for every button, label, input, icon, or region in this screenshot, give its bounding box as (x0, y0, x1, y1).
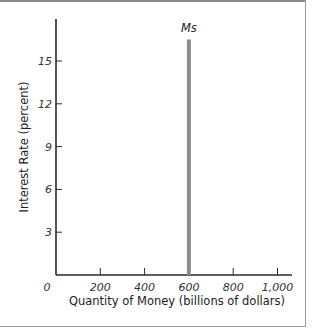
y-axis-title: Interest Rate (percent) (17, 81, 31, 212)
x-tick-label: 800 (223, 281, 244, 294)
x-axis-ticks: 02004006008001,000 (44, 268, 294, 294)
x-tick-label: 1,000 (262, 281, 294, 294)
y-tick-label: 15 (38, 55, 52, 68)
y-tick-label: 3 (45, 226, 52, 239)
money-supply-chart: 3691215 02004006008001,000 Ms Quantity o… (0, 0, 320, 332)
x-tick-label: 400 (134, 281, 155, 294)
x-axis-title: Quantity of Money (billions of dollars) (69, 294, 285, 308)
x-tick-label: 600 (178, 281, 199, 294)
x-tick-label: 0 (44, 281, 51, 294)
y-tick-label: 6 (45, 183, 52, 196)
x-tick-label: 200 (90, 281, 111, 294)
money-supply-label: Ms (181, 21, 197, 35)
y-tick-label: 9 (45, 141, 52, 154)
y-tick-label: 12 (38, 98, 52, 111)
series-group: Ms (181, 21, 197, 275)
y-axis-ticks: 3691215 (38, 55, 62, 239)
